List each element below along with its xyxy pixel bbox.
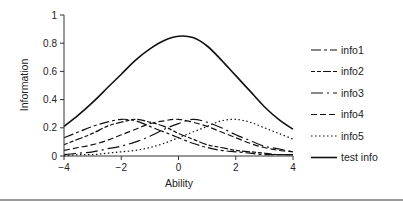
series-line-info1 (64, 119, 293, 154)
plot-area (64, 36, 293, 156)
legend-item-info2: info2 (311, 65, 364, 77)
y-tick-label: 0.2 (43, 122, 57, 133)
legend-item-info1: info1 (311, 44, 364, 56)
legend-label: test info (341, 151, 378, 163)
series-line-info3 (64, 119, 293, 154)
y-tick-label: 1 (51, 10, 57, 21)
x-axis-title: Ability (165, 177, 194, 189)
x-tick-label: −4 (58, 162, 70, 173)
x-tick-label: −2 (116, 162, 128, 173)
legend-item-info3: info3 (311, 87, 364, 99)
x-tick-label: 0 (176, 162, 182, 173)
y-tick-label: 0.6 (43, 66, 57, 77)
legend-label: info2 (341, 65, 364, 77)
y-tick-label: 0.8 (43, 38, 57, 49)
legend: info1info2info3info4info5test info (311, 44, 378, 164)
y-axis-title: Information (18, 59, 30, 112)
series-line-test-info (64, 36, 293, 129)
information-chart: 00.20.40.60.81 −4−2024 Information Abili… (0, 0, 403, 202)
series-line-info5 (64, 119, 293, 156)
x-tick-label: 4 (290, 162, 296, 173)
legend-item-test-info: test info (311, 151, 378, 163)
legend-label: info5 (341, 130, 364, 142)
series-line-info2 (64, 119, 293, 154)
legend-item-info4: info4 (311, 108, 364, 120)
legend-label: info1 (341, 44, 364, 56)
legend-item-info5: info5 (311, 130, 364, 142)
x-tick-label: 2 (233, 162, 239, 173)
axes: 00.20.40.60.81 −4−2024 Information Abili… (18, 10, 296, 190)
y-tick-label: 0.4 (43, 94, 57, 105)
legend-label: info3 (341, 87, 364, 99)
legend-label: info4 (341, 108, 364, 120)
x-ticks: −4−2024 (58, 156, 296, 173)
y-ticks: 00.20.40.60.81 (43, 10, 64, 162)
bottom-divider (0, 199, 403, 201)
y-tick-label: 0 (51, 151, 57, 162)
